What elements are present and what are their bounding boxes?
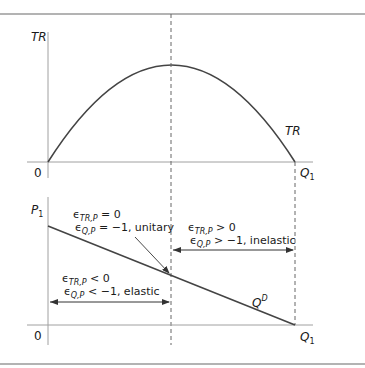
subscript: Q,P — [197, 240, 211, 249]
top-origin-label: 0 — [34, 167, 42, 179]
epsilon-symbol: ϵ — [64, 285, 71, 298]
subscript: 1 — [309, 173, 314, 182]
epsilon-symbol: ϵ — [62, 272, 69, 285]
inelastic-q-elasticity: ϵQ,P > −1, inelastic — [190, 235, 296, 251]
unitary-q-elasticity: ϵQ,P = −1, unitary — [75, 222, 174, 238]
elastic-q-elasticity: ϵQ,P < −1, elastic — [64, 286, 160, 302]
epsilon-symbol: ϵ — [75, 221, 82, 234]
bottom-y-axis-label: P1 — [31, 204, 43, 221]
superscript: D — [261, 294, 267, 303]
bottom-origin-label: 0 — [34, 330, 42, 342]
subscript: 1 — [38, 210, 43, 219]
value: < −1, elastic — [84, 285, 159, 298]
top-x-axis-label: Q1 — [300, 167, 315, 184]
tr-curve-label: TR — [285, 125, 301, 137]
epsilon-symbol: ϵ — [190, 234, 197, 247]
top-y-axis-label: TR — [31, 31, 47, 43]
epsilon-symbol: ϵ — [73, 208, 80, 221]
subscript: Q,P — [71, 291, 85, 300]
value: = −1, unitary — [95, 221, 174, 234]
demand-curve-label: QD — [252, 293, 268, 309]
value: > −1, inelastic — [210, 234, 295, 247]
value: > 0 — [213, 221, 236, 234]
subscript: 1 — [309, 337, 314, 346]
bottom-x-axis-label: Q1 — [300, 331, 315, 348]
value: = 0 — [98, 208, 121, 221]
value: < 0 — [87, 272, 110, 285]
subscript: Q,P — [82, 227, 96, 236]
diagram-canvas — [0, 0, 365, 368]
epsilon-symbol: ϵ — [188, 221, 195, 234]
